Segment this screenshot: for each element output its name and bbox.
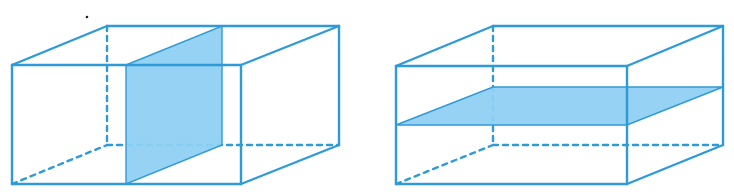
edge-bottom-right-depth <box>627 145 723 184</box>
left-cuboid <box>12 26 339 184</box>
right-cuboid <box>396 26 723 184</box>
edge-top-right-depth <box>241 26 339 65</box>
section-plane-vertical <box>126 26 222 184</box>
edge-bottom-right-depth <box>241 145 339 184</box>
edge-top-left-depth <box>396 26 493 66</box>
edge-top-right-depth <box>627 26 723 66</box>
diagram-canvas <box>0 0 734 195</box>
marks <box>86 16 89 19</box>
section-plane-horizontal <box>396 87 723 125</box>
cuboid-cross-section-figure <box>0 0 734 195</box>
edge-top-left-depth <box>12 26 107 65</box>
stray-dot <box>86 16 89 19</box>
hidden-edge-bottom-left-depth <box>12 145 107 184</box>
hidden-edge-bottom-left-depth <box>396 145 493 184</box>
